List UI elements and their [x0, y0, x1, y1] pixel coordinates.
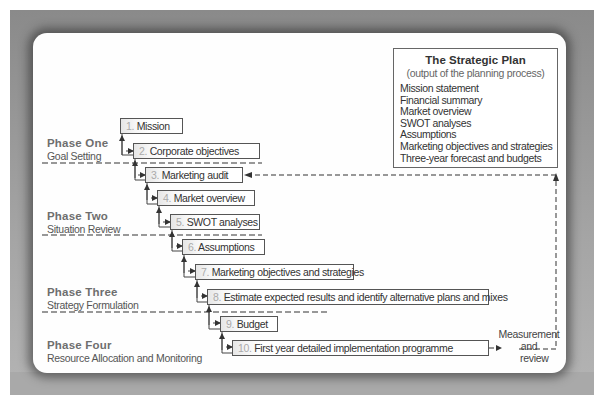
step-label: First year detailed implementation progr… [254, 342, 453, 354]
step-number: 3. [151, 169, 159, 181]
phase-subtitle: Resource Allocation and Monitoring [47, 352, 202, 365]
step-number: 4. [163, 192, 171, 204]
step-label: Marketing objectives and strategies [212, 266, 364, 278]
step-corporate-objectives: 2. Corporate objectives [133, 143, 260, 159]
plan-item: Marketing objectives and strategies [400, 141, 551, 153]
step-swot-analyses: 5. SWOT analyses [170, 214, 260, 230]
step-marketing-objectives: 7. Marketing objectives and strategies [195, 264, 354, 280]
feedback-line-2: and [496, 340, 562, 352]
phase-two: Phase Two Situation Review [47, 209, 120, 236]
strategic-plan-list: Mission statement Financial summary Mark… [400, 83, 551, 164]
step-label: Assumptions [198, 241, 254, 253]
step-number: 7. [201, 266, 209, 278]
step-label: Estimate expected results and identify a… [224, 291, 508, 303]
phase-title: Phase Three [47, 285, 138, 299]
measurement-review-label: Measurement and review [496, 328, 562, 364]
phase-title: Phase One [47, 136, 108, 150]
step-market-overview: 4. Market overview [157, 190, 255, 206]
step-mission: 1. Mission [120, 118, 183, 134]
strategic-plan-subtitle: (output of the planning process) [400, 67, 551, 80]
step-label: Budget [237, 318, 268, 330]
step-marketing-audit: 3. Marketing audit [145, 167, 243, 183]
step-label: Mission [137, 120, 170, 132]
step-number: 2. [139, 145, 147, 157]
step-estimate-results: 8. Estimate expected results and identif… [207, 289, 489, 305]
feedback-line-3: review [510, 352, 562, 364]
strategic-plan-title: The Strategic Plan [400, 53, 551, 67]
phase-title: Phase Four [47, 338, 202, 352]
phase-subtitle: Strategy Formulation [47, 299, 138, 312]
phase-subtitle: Situation Review [47, 223, 120, 236]
feedback-line-1: Measurement [496, 328, 562, 340]
plan-item: Three-year forecast and budgets [400, 153, 551, 165]
phase-three: Phase Three Strategy Formulation [47, 285, 138, 312]
step-label: Corporate objectives [150, 145, 239, 157]
phase-title: Phase Two [47, 209, 120, 223]
step-label: SWOT analyses [187, 216, 258, 228]
step-number: 6. [188, 241, 196, 253]
phase-one: Phase One Goal Setting [47, 136, 108, 163]
phase-subtitle: Goal Setting [47, 150, 108, 163]
step-budget: 9. Budget [220, 316, 278, 332]
step-number: 9. [226, 318, 234, 330]
step-number: 5. [176, 216, 184, 228]
step-assumptions: 6. Assumptions [182, 239, 265, 255]
step-number: 8. [213, 291, 221, 303]
phase-four: Phase Four Resource Allocation and Monit… [47, 338, 202, 365]
step-label: Marketing audit [162, 169, 229, 181]
step-number: 1. [126, 120, 134, 132]
step-label: Market overview [174, 192, 245, 204]
step-number: 10. [238, 342, 252, 354]
plan-item: Mission statement [400, 83, 551, 95]
step-implementation-programme: 10. First year detailed implementation p… [232, 340, 489, 356]
strategic-plan-box: The Strategic Plan (output of the planni… [393, 48, 558, 168]
